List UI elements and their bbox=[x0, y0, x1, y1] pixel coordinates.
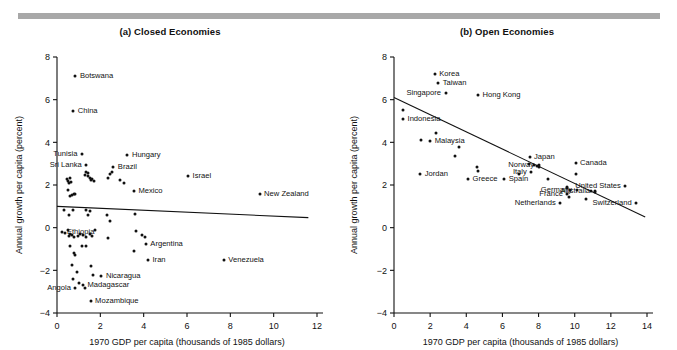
point-label-indonesia: Indonesia bbox=[408, 115, 441, 123]
data-point bbox=[92, 179, 95, 182]
point-label-netherlands: Netherlands bbox=[515, 199, 556, 207]
panel-open-economies: (b) Open Economies Annual growth per cap… bbox=[337, 0, 677, 350]
data-point-greece bbox=[467, 177, 470, 180]
data-point bbox=[118, 178, 121, 181]
data-point-france bbox=[566, 192, 569, 195]
data-point-argentina bbox=[144, 242, 147, 245]
data-point bbox=[85, 236, 88, 239]
data-point-angola bbox=[74, 287, 77, 290]
data-point-netherlands bbox=[559, 202, 562, 205]
svg-text:8: 8 bbox=[45, 52, 50, 62]
data-point bbox=[106, 176, 109, 179]
point-label-australia: Australia bbox=[561, 188, 591, 196]
svg-text:4: 4 bbox=[464, 321, 469, 331]
point-label-madagascar: Madagascar bbox=[88, 281, 130, 289]
svg-text:0: 0 bbox=[391, 321, 396, 331]
point-label-nicaragua: Nicaragua bbox=[106, 272, 141, 280]
data-point-china bbox=[72, 110, 75, 113]
data-point bbox=[69, 244, 72, 247]
data-point-nicaragua bbox=[100, 274, 103, 277]
data-point bbox=[458, 145, 461, 148]
data-point bbox=[584, 197, 587, 200]
data-point bbox=[80, 244, 83, 247]
data-point bbox=[123, 181, 126, 184]
svg-text:2: 2 bbox=[45, 180, 50, 190]
data-point-ethiopia bbox=[61, 230, 64, 233]
data-point bbox=[132, 250, 135, 253]
data-point-korea bbox=[433, 73, 436, 76]
svg-text:0: 0 bbox=[54, 321, 59, 331]
data-point bbox=[71, 264, 74, 267]
data-point bbox=[74, 254, 77, 257]
data-point-botswana bbox=[74, 75, 77, 78]
svg-text:6: 6 bbox=[382, 95, 387, 105]
svg-text:−2: −2 bbox=[40, 266, 50, 276]
data-point-indonesia bbox=[402, 117, 405, 120]
svg-text:10: 10 bbox=[269, 321, 279, 331]
data-point-spain bbox=[503, 177, 506, 180]
point-label-tunisia: Tunisia bbox=[53, 150, 77, 158]
data-point-taiwan bbox=[437, 81, 440, 84]
data-point bbox=[477, 170, 480, 173]
data-point bbox=[69, 194, 72, 197]
data-point-singapore bbox=[444, 92, 447, 95]
data-point bbox=[134, 212, 137, 215]
svg-text:6: 6 bbox=[184, 321, 189, 331]
data-point-jordan bbox=[419, 173, 422, 176]
point-label-spain: Spain bbox=[509, 175, 528, 183]
data-point bbox=[87, 172, 90, 175]
data-point-brazil bbox=[112, 165, 115, 168]
panel-a-plot: −4−202468024681012 bbox=[0, 0, 340, 350]
data-point bbox=[77, 282, 80, 285]
svg-text:0: 0 bbox=[45, 223, 50, 233]
panel-closed-economies: (a) Closed Economies Annual growth per c… bbox=[0, 0, 340, 350]
point-label-china: China bbox=[78, 108, 98, 116]
svg-text:−4: −4 bbox=[40, 308, 50, 318]
data-point-hungary bbox=[126, 154, 129, 157]
svg-text:4: 4 bbox=[382, 138, 387, 148]
data-point-new-zealand bbox=[258, 192, 261, 195]
point-label-mozambique: Mozambique bbox=[95, 297, 138, 305]
figure-root: (a) Closed Economies Annual growth per c… bbox=[0, 0, 677, 350]
point-label-brazil: Brazil bbox=[118, 163, 137, 171]
data-point-switzerland bbox=[635, 202, 638, 205]
data-point bbox=[135, 229, 138, 232]
data-point-united-states bbox=[624, 185, 627, 188]
data-point-iran bbox=[147, 258, 150, 261]
data-point-mexico bbox=[132, 190, 135, 193]
panel-b-plot: −4−20246802468101214 bbox=[337, 0, 677, 350]
svg-text:8: 8 bbox=[228, 321, 233, 331]
data-point bbox=[85, 244, 88, 247]
data-point-australia bbox=[593, 190, 596, 193]
svg-text:14: 14 bbox=[642, 321, 652, 331]
data-point bbox=[111, 171, 114, 174]
point-label-angola: Angola bbox=[47, 285, 71, 293]
data-point bbox=[105, 213, 108, 216]
point-label-new-zealand: New Zealand bbox=[264, 190, 309, 198]
point-label-sri-lanka: Sri Lanka bbox=[50, 161, 82, 169]
data-point-mozambique bbox=[89, 300, 92, 303]
point-label-hong-kong: Hong Kong bbox=[483, 92, 521, 100]
svg-text:2: 2 bbox=[382, 180, 387, 190]
data-point bbox=[71, 208, 74, 211]
svg-text:−2: −2 bbox=[377, 266, 387, 276]
svg-text:10: 10 bbox=[570, 321, 580, 331]
data-point-malaysia bbox=[429, 140, 432, 143]
data-point bbox=[546, 177, 549, 180]
point-label-greece: Greece bbox=[473, 175, 498, 183]
data-point bbox=[84, 287, 87, 290]
data-point bbox=[89, 265, 92, 268]
data-point bbox=[74, 192, 77, 195]
data-point bbox=[420, 139, 423, 142]
data-point-sri-lanka bbox=[85, 163, 88, 166]
point-label-taiwan: Taiwan bbox=[443, 79, 467, 87]
point-label-korea: Korea bbox=[439, 70, 459, 78]
point-label-iran: Iran bbox=[153, 256, 166, 264]
data-point-japan bbox=[528, 156, 531, 159]
point-label-mexico: Mexico bbox=[138, 188, 162, 196]
point-label-hungary: Hungary bbox=[132, 151, 161, 159]
point-label-argentina: Argentina bbox=[150, 240, 183, 248]
point-label-canada: Canada bbox=[580, 159, 607, 167]
point-label-singapore: Singapore bbox=[406, 89, 441, 97]
data-point bbox=[70, 180, 73, 183]
